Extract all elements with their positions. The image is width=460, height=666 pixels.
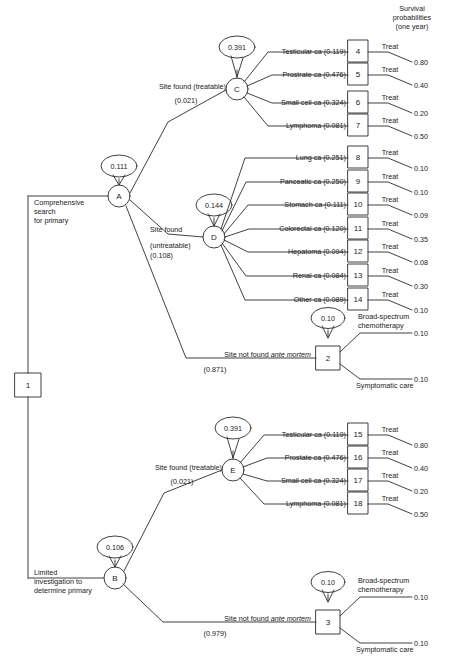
node-D-label[interactable]: D (211, 233, 217, 242)
branch-label-site-found-untreatable: Site found (150, 225, 182, 234)
leaf-label: Prostate ca (0.476) (285, 453, 346, 462)
terminal-node-label[interactable]: 12 (354, 247, 363, 256)
strategy-B-label: Limited investigation to determine prima… (34, 568, 92, 595)
edge-node2-branch-1 (340, 333, 412, 352)
treat-label: Treat (382, 42, 399, 51)
treat-label: Treat (382, 195, 399, 204)
survival-value: 0.08 (414, 258, 428, 267)
terminal-node-label[interactable]: 14 (354, 295, 363, 304)
survival-value: 0.80 (414, 441, 428, 450)
terminal-node-label[interactable]: 10 (354, 200, 363, 209)
bubble-A-value-label: 0.111 (111, 162, 128, 171)
terminal-node-label[interactable]: 9 (356, 177, 360, 186)
strategy-B-line2: investigation to (34, 577, 92, 586)
terminal-node-label[interactable]: 6 (356, 98, 360, 107)
node-B-label[interactable]: B (112, 574, 117, 583)
branch-prob-site-not-found-B: (0.979) (204, 629, 227, 638)
survival-header-line2: probabilities (367, 13, 457, 22)
terminal-node-label[interactable]: 15 (354, 430, 363, 439)
node-C-label[interactable]: C (234, 85, 240, 94)
broad-spectrum-line2: chemotherapy (358, 585, 409, 594)
edge-treat (368, 182, 412, 192)
terminal-node-label[interactable]: 8 (356, 153, 360, 162)
treat-label: Treat (382, 148, 399, 157)
site-not-found-italic-B: ante mortem (271, 614, 311, 623)
edge-treat (368, 435, 412, 445)
terminal-node-label[interactable]: 5 (356, 70, 360, 79)
edge-treat (368, 75, 412, 85)
terminal-node-label[interactable]: 13 (354, 271, 363, 280)
survival-value: 0.20 (414, 109, 428, 118)
branch-prob-site-not-found-A: (0.871) (204, 365, 227, 374)
survival-value: 0.50 (414, 510, 428, 519)
treat-label: Treat (382, 242, 399, 251)
leaf-label: Other ca (0.089) (294, 295, 346, 304)
leaf-label: Stomach ca (0.111) (284, 200, 346, 209)
treat-label: Treat (382, 172, 399, 181)
edge-treat (368, 276, 412, 286)
survival-value: 0.10 (414, 639, 428, 648)
treat-label: Treat (382, 219, 399, 228)
edge-treat (368, 504, 412, 514)
terminal-node-label[interactable]: 18 (354, 499, 363, 508)
treat-label: Treat (382, 494, 399, 503)
leaf-label: Small cell ca (0.324) (281, 98, 346, 107)
treat-label: Treat (382, 266, 399, 275)
branch-label-site-found-treatable-B: Site found (treatable) (155, 463, 222, 472)
edge-treat (368, 126, 412, 136)
treat-label: Treat (382, 448, 399, 457)
edge-treat (368, 205, 412, 215)
terminal-node-label[interactable]: 4 (356, 47, 360, 56)
terminal-node-label[interactable]: 17 (354, 476, 363, 485)
node-E-label[interactable]: E (230, 466, 235, 475)
strategy-A-label: Comprehensive search for primary (34, 198, 84, 225)
leaf-label: Renal ca (0.084) (293, 271, 346, 280)
survival-value: 0.10 (414, 188, 428, 197)
branch-label-site-not-found-A: Site not found ante mortem (224, 350, 311, 359)
survival-value: 0.10 (414, 306, 428, 315)
strategy-B-line3: determine primary (34, 586, 92, 595)
treat-label: Treat (382, 65, 399, 74)
leaf-label: Prostrate ca (0.476) (282, 70, 346, 79)
terminal-node-label[interactable]: 7 (356, 121, 360, 130)
node-A-label[interactable]: A (116, 192, 121, 201)
strategy-A-line2: search (34, 207, 84, 216)
branch-prob-site-found-treatable-A: (0.021) (175, 96, 198, 105)
survival-value: 0.30 (414, 282, 428, 291)
treat-label: Treat (382, 425, 399, 434)
survival-value: 0.10 (414, 329, 428, 338)
node-3-label[interactable]: 3 (326, 618, 330, 627)
strategy-A-line3: for primary (34, 216, 84, 225)
edge-treat (368, 481, 412, 491)
survival-header-line1: Survival (367, 4, 457, 13)
leaf-label: Testicular ca (0.119) (282, 430, 346, 439)
site-not-found-italic-A: ante mortem (271, 350, 311, 359)
node-root-1-label[interactable]: 1 (26, 381, 30, 390)
branch-site-found-untreatable-prob: (0.108) (150, 251, 173, 260)
terminal-node-label[interactable]: 11 (354, 224, 362, 233)
node2-branch1-label: Broad-spectrum chemotherapy (358, 312, 409, 330)
bubble-C-value-label: 0.391 (228, 43, 246, 52)
survival-value: 0.20 (414, 487, 428, 496)
bubble-E-value-label: 0.391 (224, 424, 242, 433)
site-not-found-prefix-B: Site not found (224, 614, 270, 623)
bubble-node2-value-label: 0.10 (321, 314, 335, 323)
edge-treat (368, 229, 412, 239)
broad-spectrum-line2: chemotherapy (358, 321, 409, 330)
survival-value: 0.40 (414, 464, 428, 473)
leaf-label: Small cell ca (0.324) (281, 476, 346, 485)
node-2-label[interactable]: 2 (326, 354, 330, 363)
leaf-label: Lung ca (0.251) (296, 153, 346, 162)
survival-value: 0.40 (414, 81, 428, 90)
leaf-label: Panceatic ca (0.250) (280, 177, 346, 186)
treat-label: Treat (382, 471, 399, 480)
treat-label: Treat (382, 116, 399, 125)
leaf-label: Colorectal ca (0.120) (279, 224, 346, 233)
bubble-node3-value-label: 0.10 (321, 578, 335, 587)
branch-site-found-untreatable-line2: (untreatable) (150, 241, 191, 250)
branch-label-site-found-treatable-A: Site found (treatable) (159, 82, 226, 91)
survival-value: 0.10 (414, 164, 428, 173)
branch-label-site-not-found-B: Site not found ante mortem (224, 614, 311, 623)
terminal-node-label[interactable]: 16 (354, 453, 363, 462)
leaf-label: Lymphoma (0.081) (286, 121, 346, 130)
